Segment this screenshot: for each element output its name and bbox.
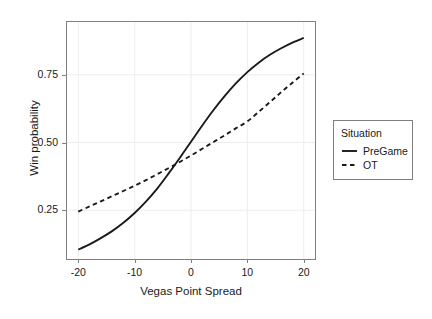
legend-label: OT	[363, 159, 378, 171]
x-tick-label: 10	[222, 266, 272, 278]
x-tick-mark	[78, 259, 79, 263]
y-axis-title: Win probability	[28, 63, 40, 213]
legend-key-solid-line-icon	[341, 145, 358, 157]
y-tick-mark	[62, 143, 66, 144]
x-tick-label: 20	[279, 266, 329, 278]
x-tick-label: -20	[53, 266, 103, 278]
y-tick-mark	[62, 210, 66, 211]
legend-entry-pregame[interactable]: PreGame	[341, 144, 405, 158]
legend: Situation PreGameOT	[333, 120, 413, 180]
legend-key-dashed-line-icon	[341, 159, 358, 171]
x-tick-mark	[247, 259, 248, 263]
legend-entry-ot[interactable]: OT	[341, 158, 405, 172]
x-tick-mark	[304, 259, 305, 263]
plot-panel	[66, 21, 316, 260]
x-tick-mark	[135, 259, 136, 263]
x-axis-title: Vegas Point Spread	[66, 285, 316, 297]
x-tick-mark	[191, 259, 192, 263]
x-tick-label: -10	[110, 266, 160, 278]
y-tick-mark	[62, 75, 66, 76]
legend-title: Situation	[341, 127, 405, 139]
legend-label: PreGame	[363, 145, 408, 157]
x-tick-label: 0	[166, 266, 216, 278]
chart-figure: 0.250.500.75 -20-1001020 Vegas Point Spr…	[0, 0, 432, 319]
legend-entries: PreGameOT	[341, 144, 405, 172]
plot-area	[67, 22, 315, 259]
